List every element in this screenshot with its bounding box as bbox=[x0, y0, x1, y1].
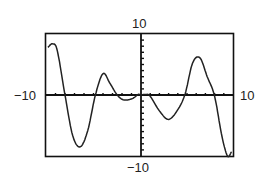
y-min-label: −10 bbox=[127, 161, 149, 174]
x-min-label: −10 bbox=[14, 89, 36, 102]
x-max-label: 10 bbox=[240, 89, 254, 102]
y-max-label: 10 bbox=[132, 17, 146, 30]
function-curve bbox=[48, 44, 231, 157]
